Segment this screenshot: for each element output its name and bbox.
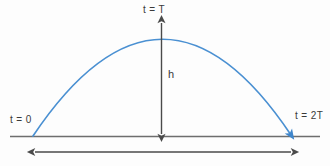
label-launch-time: t = 0 <box>10 115 32 125</box>
label-apex-time: t = T <box>143 5 165 15</box>
label-max-height: h <box>168 69 175 80</box>
diagram-canvas <box>0 0 330 166</box>
label-landing-time: t = 2T <box>295 111 323 121</box>
projectile-motion-diagram: t = 0 t = T t = 2T h <box>0 0 330 166</box>
